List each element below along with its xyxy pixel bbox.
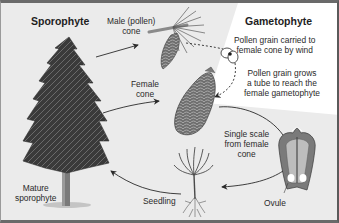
sporophyte-title: Sporophyte (31, 15, 89, 27)
arrow-pollen-dispersal (186, 43, 223, 49)
male-cone-label: Male (pollen) cone (107, 16, 155, 36)
arrow-seedling-to-tree (111, 171, 181, 194)
arrow-tree-to-male-cone (96, 45, 138, 57)
mature-sporophyte-label: Mature sporophyte (15, 183, 56, 203)
gametophyte-title: Gametophyte (245, 15, 312, 27)
ovule-label: Ovule (264, 198, 286, 208)
single-scale-illustration (279, 127, 316, 193)
arrow-tree-to-female-cone (103, 101, 159, 113)
female-cone-illustration (175, 67, 216, 135)
male-cone-illustration (149, 7, 205, 69)
female-cone-label: Female cone (131, 79, 159, 99)
ovule-left (288, 174, 295, 182)
seedling-label: Seedling (143, 196, 176, 206)
pollen-tube-annotation: Pollen grain grows a tube to reach the f… (244, 68, 320, 98)
ovule-right (300, 174, 307, 182)
seedling-illustration (174, 147, 213, 217)
single-scale-label: Single scale from female cone (224, 129, 269, 159)
pollen-wind-annotation: Pollen grain carried to female cone by w… (234, 35, 315, 55)
life-cycle-diagram: Sporophyte Gametophyte Male (pollen) con… (0, 0, 339, 223)
arrow-scale-to-seedling (222, 171, 283, 187)
